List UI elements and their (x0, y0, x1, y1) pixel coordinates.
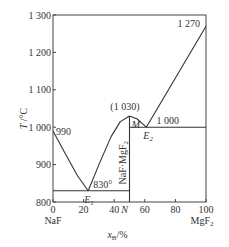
x-end-label-mgf2: MgF2 (191, 215, 214, 228)
label-m: M (131, 119, 141, 130)
phase-diagram: 8009001 0001 1001 2001 300020406080100Na… (0, 0, 229, 247)
x-tick-label: 100 (199, 204, 214, 215)
y-tick-label: 1 100 (29, 84, 52, 95)
y-tick-label: 800 (36, 197, 51, 208)
label-990: 990 (56, 126, 71, 137)
x-tick-label: 60 (140, 204, 150, 215)
x-tick-label: 20 (79, 204, 89, 215)
label-compound: NaF·MgF2 (117, 140, 130, 184)
y-tick-label: 1 200 (29, 47, 52, 58)
label-1270: 1 270 (177, 18, 200, 29)
series-liquidus-mgf2 (146, 26, 206, 127)
y-tick-label: 1 300 (29, 10, 52, 21)
x-tick-label: 80 (170, 204, 180, 215)
label-1030: (1 030) (110, 101, 139, 113)
y-axis-label: T /°C (18, 107, 29, 129)
series-liquidus-naf (53, 131, 88, 191)
y-tick-label: 1 000 (29, 122, 52, 133)
label-n: N (120, 204, 129, 215)
y-tick-label: 900 (36, 159, 51, 170)
label-830: 830° (93, 179, 112, 190)
x-end-label-naf: NaF (44, 215, 62, 226)
x-tick-label: 40 (109, 204, 119, 215)
label-1000: 1 000 (157, 115, 180, 126)
x-axis-label: xB/% (106, 229, 127, 242)
label-e2: E2 (142, 130, 153, 143)
x-tick-label: 0 (51, 204, 56, 215)
